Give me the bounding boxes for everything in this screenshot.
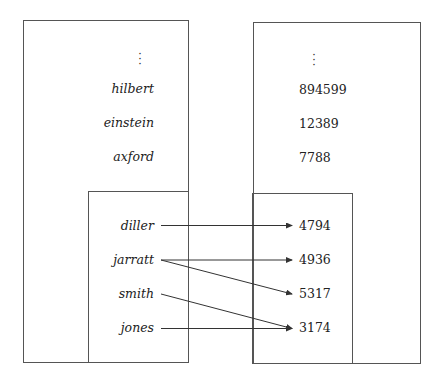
arrows-layer [0,0,440,382]
arrow-jarratt-5317 [161,260,292,294]
mapping-diagram: ··· ··· hilbert einstein axford diller j… [0,0,440,382]
arrow-smith-3174 [161,294,292,329]
